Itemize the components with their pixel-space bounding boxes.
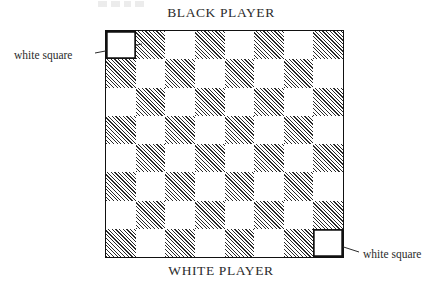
board-square-r8-c5 <box>225 229 255 257</box>
board-square-r8-c3 <box>165 229 195 257</box>
callout-label-bottom-right: white square <box>363 248 421 260</box>
callout-label-top-left: white square <box>14 49 72 61</box>
board-square-r7-c4 <box>195 201 225 229</box>
board-square-r3-c5 <box>225 88 255 116</box>
board-square-r1-c4 <box>195 31 225 59</box>
board-square-r2-c1 <box>106 59 136 87</box>
board-square-r3-c6 <box>254 88 284 116</box>
board-square-r4-c7 <box>284 116 314 144</box>
board-square-r5-c2 <box>136 144 166 172</box>
board-square-r2-c4 <box>195 59 225 87</box>
white-player-label: WHITE PLAYER <box>0 263 442 279</box>
board-square-r2-c2 <box>136 59 166 87</box>
black-player-label: BLACK PLAYER <box>0 5 442 21</box>
board-square-r5-c5 <box>225 144 255 172</box>
board-square-r3-c2 <box>136 88 166 116</box>
board-square-r8-c2 <box>136 229 166 257</box>
board-square-r6-c3 <box>165 172 195 200</box>
board-square-r7-c8 <box>313 201 343 229</box>
board-square-r7-c7 <box>284 201 314 229</box>
board-square-r7-c2 <box>136 201 166 229</box>
board-square-highlighted-r8-c8 <box>313 229 343 257</box>
board-square-r7-c1 <box>106 201 136 229</box>
board-square-r2-c5 <box>225 59 255 87</box>
board-square-r2-c8 <box>313 59 343 87</box>
chessboard-grid <box>105 30 344 258</box>
board-square-r4-c2 <box>136 116 166 144</box>
board-square-r5-c3 <box>165 144 195 172</box>
board-square-r1-c3 <box>165 31 195 59</box>
board-square-r4-c1 <box>106 116 136 144</box>
board-square-r3-c8 <box>313 88 343 116</box>
board-square-r2-c3 <box>165 59 195 87</box>
chessboard-figure: BLACK PLAYER WHITE PLAYER white square w… <box>0 0 442 288</box>
board-square-r6-c7 <box>284 172 314 200</box>
board-square-r4-c4 <box>195 116 225 144</box>
board-square-r6-c5 <box>225 172 255 200</box>
board-square-r2-c6 <box>254 59 284 87</box>
board-square-r4-c6 <box>254 116 284 144</box>
board-square-r6-c4 <box>195 172 225 200</box>
board-square-r4-c8 <box>313 116 343 144</box>
board-square-r5-c6 <box>254 144 284 172</box>
board-square-r6-c6 <box>254 172 284 200</box>
board-square-r2-c7 <box>284 59 314 87</box>
board-square-r5-c7 <box>284 144 314 172</box>
board-square-r7-c6 <box>254 201 284 229</box>
board-square-r8-c7 <box>284 229 314 257</box>
board-square-r7-c5 <box>225 201 255 229</box>
board-square-r8-c6 <box>254 229 284 257</box>
board-square-r1-c8 <box>313 31 343 59</box>
board-square-r6-c1 <box>106 172 136 200</box>
board-square-r1-c6 <box>254 31 284 59</box>
board-square-r5-c4 <box>195 144 225 172</box>
board-square-r4-c5 <box>225 116 255 144</box>
board-square-r3-c3 <box>165 88 195 116</box>
board-square-r5-c1 <box>106 144 136 172</box>
board-square-r4-c3 <box>165 116 195 144</box>
board-square-r1-c5 <box>225 31 255 59</box>
board-square-r1-c2 <box>136 31 166 59</box>
board-square-r8-c1 <box>106 229 136 257</box>
board-square-highlighted-r1-c1 <box>106 31 136 59</box>
board-square-r3-c7 <box>284 88 314 116</box>
board-square-r6-c8 <box>313 172 343 200</box>
board-square-r7-c3 <box>165 201 195 229</box>
board-square-r6-c2 <box>136 172 166 200</box>
board-square-r3-c4 <box>195 88 225 116</box>
board-square-r5-c8 <box>313 144 343 172</box>
board-square-r3-c1 <box>106 88 136 116</box>
board-square-r1-c7 <box>284 31 314 59</box>
board-square-r8-c4 <box>195 229 225 257</box>
